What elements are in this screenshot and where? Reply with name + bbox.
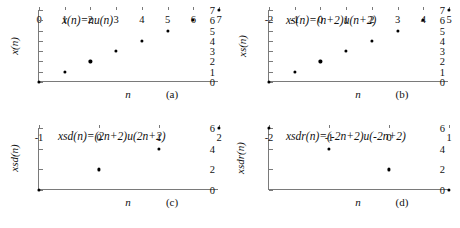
y-tick-label: 7 xyxy=(440,5,445,16)
x-tick-label: 5 xyxy=(165,14,170,25)
data-point xyxy=(166,29,169,32)
panel-c: -10120246 xsd(n)=(2n+2)u(2n+2) n xsd(n) … xyxy=(0,114,230,228)
data-point xyxy=(319,60,322,63)
y-tick-mark xyxy=(39,20,43,21)
data-point xyxy=(89,60,92,63)
x-axis-title-d: n xyxy=(355,196,361,208)
data-point xyxy=(217,8,220,11)
y-tick-label: 6 xyxy=(440,15,445,26)
panel-d: -2-1010246 xsdr(n)=(-2n+2)u(-2n+2) n xsd… xyxy=(230,114,460,228)
x-tick-mark xyxy=(193,7,194,11)
x-tick-mark xyxy=(142,7,143,11)
y-tick-label: 6 xyxy=(210,123,215,134)
data-point xyxy=(217,126,220,129)
y-tick-mark xyxy=(39,61,43,62)
y-tick-mark xyxy=(39,10,43,11)
data-point xyxy=(140,39,143,42)
data-point xyxy=(157,147,160,150)
x-tick-mark xyxy=(329,125,330,129)
x-axis-title-b: n xyxy=(355,88,361,100)
y-axis-title-d: xsdr(n) xyxy=(234,142,246,174)
y-tick-label: 7 xyxy=(210,5,215,16)
data-point xyxy=(97,168,100,171)
x-tick-mark xyxy=(372,7,373,11)
figure-container: 0123456701234567 x(n)=nu(n) n x(n) (a) -… xyxy=(0,0,460,228)
y-tick-mark xyxy=(269,61,273,62)
x-tick-mark xyxy=(423,7,424,11)
y-tick-label: 6 xyxy=(210,15,215,26)
y-tick-mark xyxy=(269,72,273,73)
x-tick-mark xyxy=(295,7,296,11)
x-tick-mark xyxy=(346,7,347,11)
x-tick-mark xyxy=(168,7,169,11)
y-tick-label: 5 xyxy=(440,25,445,36)
y-tick-label: 3 xyxy=(440,46,445,57)
x-tick-label: 1 xyxy=(446,132,451,143)
x-tick-label: 7 xyxy=(216,14,221,25)
x-tick-label: 4 xyxy=(139,14,144,25)
data-point xyxy=(327,147,330,150)
y-tick-label: 5 xyxy=(210,25,215,36)
y-tick-mark xyxy=(39,41,43,42)
equation-label-a: x(n)=nu(n) xyxy=(62,14,113,26)
x-tick-label: 3 xyxy=(114,14,119,25)
y-axis-title-b: xs(n) xyxy=(236,35,248,57)
data-point xyxy=(345,50,348,53)
panel-b: -2-101234501234567 xs(n)=(n+2)u(n+2) n x… xyxy=(230,0,460,114)
y-tick-mark xyxy=(39,128,43,129)
y-tick-mark xyxy=(269,169,273,170)
x-tick-label: 5 xyxy=(446,14,451,25)
data-point xyxy=(267,126,270,129)
y-tick-label: 4 xyxy=(210,35,215,46)
y-tick-label: 0 xyxy=(440,185,445,196)
x-tick-mark xyxy=(90,7,91,11)
y-tick-label: 2 xyxy=(440,164,445,175)
x-tick-label: -2 xyxy=(265,132,274,143)
x-tick-mark xyxy=(449,125,450,129)
x-tick-label: 3 xyxy=(395,14,400,25)
x-tick-label: 2 xyxy=(216,132,221,143)
data-point xyxy=(396,29,399,32)
x-tick-mark xyxy=(398,7,399,11)
x-tick-mark xyxy=(389,125,390,129)
data-point xyxy=(447,188,450,191)
y-tick-label: 3 xyxy=(210,46,215,57)
y-tick-label: 0 xyxy=(210,77,215,88)
x-tick-label: -1 xyxy=(35,132,44,143)
data-point xyxy=(37,188,40,191)
y-tick-label: 2 xyxy=(210,164,215,175)
y-tick-mark xyxy=(269,190,273,191)
y-tick-label: 0 xyxy=(210,185,215,196)
subcaption-b: (b) xyxy=(396,88,409,100)
subcaption-d: (d) xyxy=(396,196,409,208)
data-point xyxy=(267,80,270,83)
y-tick-mark xyxy=(39,31,43,32)
x-tick-mark xyxy=(99,125,100,129)
y-tick-mark xyxy=(39,149,43,150)
equation-label-b: xs(n)=(n+2)u(n+2) xyxy=(286,14,376,26)
y-tick-label: 4 xyxy=(440,143,445,154)
y-tick-label: 4 xyxy=(440,35,445,46)
x-axis-title-a: n xyxy=(125,88,131,100)
data-point xyxy=(370,39,373,42)
subcaption-c: (c) xyxy=(166,196,178,208)
y-tick-mark xyxy=(269,41,273,42)
y-axis-title-a: x(n) xyxy=(8,37,20,55)
x-axis-title-c: n xyxy=(125,196,131,208)
data-point xyxy=(387,168,390,171)
y-tick-label: 4 xyxy=(210,143,215,154)
equation-label-d: xsdr(n)=(-2n+2)u(-2n+2) xyxy=(286,130,406,142)
y-tick-label: 0 xyxy=(440,77,445,88)
x-tick-mark xyxy=(65,7,66,11)
x-tick-mark xyxy=(159,125,160,129)
y-tick-label: 2 xyxy=(210,56,215,67)
y-tick-mark xyxy=(269,20,273,21)
y-tick-mark xyxy=(269,10,273,11)
data-point xyxy=(37,80,40,83)
y-tick-mark xyxy=(269,149,273,150)
x-tick-mark xyxy=(116,7,117,11)
y-tick-mark xyxy=(269,51,273,52)
y-axis-title-c: xsd(n) xyxy=(8,144,20,172)
y-tick-label: 1 xyxy=(440,66,445,77)
panel-a: 0123456701234567 x(n)=nu(n) n x(n) (a) xyxy=(0,0,230,114)
